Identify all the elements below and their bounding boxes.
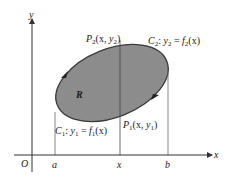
origin-label: O <box>21 158 28 169</box>
tick-label-b: b <box>165 159 170 170</box>
curve-c1-label: C1: y1 = f1(x) <box>55 125 107 138</box>
region-label: R <box>75 89 83 100</box>
point-p2-label: P2(x, y2) <box>85 33 120 46</box>
region-diagram: y x O a x b R P2(x, y2) C2: y2 = f2(x) C… <box>0 0 225 177</box>
curve-c2-label: C2: y2 = f2(x) <box>148 35 200 48</box>
point-p1-label: P1(x, y1) <box>122 119 157 132</box>
y-axis-label: y <box>28 9 34 20</box>
tick-label-x: x <box>116 159 122 170</box>
x-axis-label: x <box>213 149 219 160</box>
tick-label-a: a <box>52 159 57 170</box>
